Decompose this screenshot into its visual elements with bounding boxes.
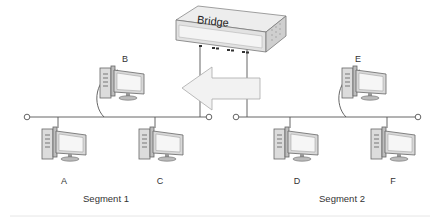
computer-label-d: D — [294, 176, 301, 186]
segment-1-bus — [24, 114, 212, 120]
segment-2-label: Segment 2 — [319, 193, 365, 204]
computer-label-f: F — [390, 176, 396, 186]
bridge-device — [176, 6, 286, 54]
segment-1-label: Segment 1 — [83, 193, 129, 204]
computer-label-c: C — [157, 176, 164, 186]
computer-d[interactable] — [274, 127, 318, 161]
computer-f[interactable] — [371, 127, 415, 161]
computer-e[interactable] — [339, 66, 386, 117]
computer-c[interactable] — [139, 127, 183, 161]
segment-2-bus — [233, 114, 421, 120]
computer-label-e: E — [355, 54, 361, 64]
computer-label-a: A — [61, 176, 67, 186]
computer-b[interactable] — [97, 66, 144, 117]
computer-label-b: B — [122, 54, 128, 64]
computer-a[interactable] — [42, 127, 86, 161]
traffic-arrow-icon — [182, 67, 260, 110]
